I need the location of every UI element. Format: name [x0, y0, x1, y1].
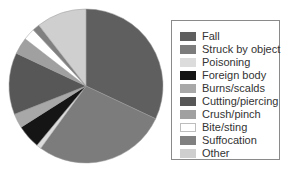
legend-item-crush-pinch: Crush/pinch [180, 108, 261, 121]
legend-item-foreign-body: Foreign body [180, 69, 266, 82]
legend-swatch [180, 71, 196, 80]
legend-label: Poisoning [202, 56, 250, 69]
legend-label: Cutting/piercing [202, 95, 278, 108]
legend-item-suffocation: Suffocation [180, 134, 257, 147]
legend-swatch [180, 136, 196, 145]
legend-item-bite-sting: Bite/sting [180, 121, 247, 134]
legend-label: Bite/sting [202, 121, 247, 134]
legend-item-struck-by-object: Struck by object [180, 43, 280, 56]
legend-item-fall: Fall [180, 30, 220, 43]
pie-chart [0, 0, 172, 171]
legend-swatch [180, 84, 196, 93]
legend-item-other: Other [180, 147, 230, 160]
legend-label: Crush/pinch [202, 108, 261, 121]
legend-item-cutting-piercing: Cutting/piercing [180, 95, 278, 108]
legend-swatch [180, 45, 196, 54]
legend-item-burns-scalds: Burns/scalds [180, 82, 265, 95]
legend-label: Burns/scalds [202, 82, 265, 95]
legend-item-poisoning: Poisoning [180, 56, 250, 69]
legend-swatch [180, 97, 196, 106]
legend-label: Suffocation [202, 134, 257, 147]
legend-swatch [180, 149, 196, 158]
legend-label: Foreign body [202, 69, 266, 82]
legend-label: Fall [202, 30, 220, 43]
legend-swatch [180, 58, 196, 67]
legend-swatch [180, 110, 196, 119]
legend-label: Struck by object [202, 43, 280, 56]
legend-swatch [180, 123, 196, 132]
chart-legend: Fall Struck by object Poisoning Foreign … [171, 20, 280, 160]
legend-swatch [180, 32, 196, 41]
legend-label: Other [202, 147, 230, 160]
